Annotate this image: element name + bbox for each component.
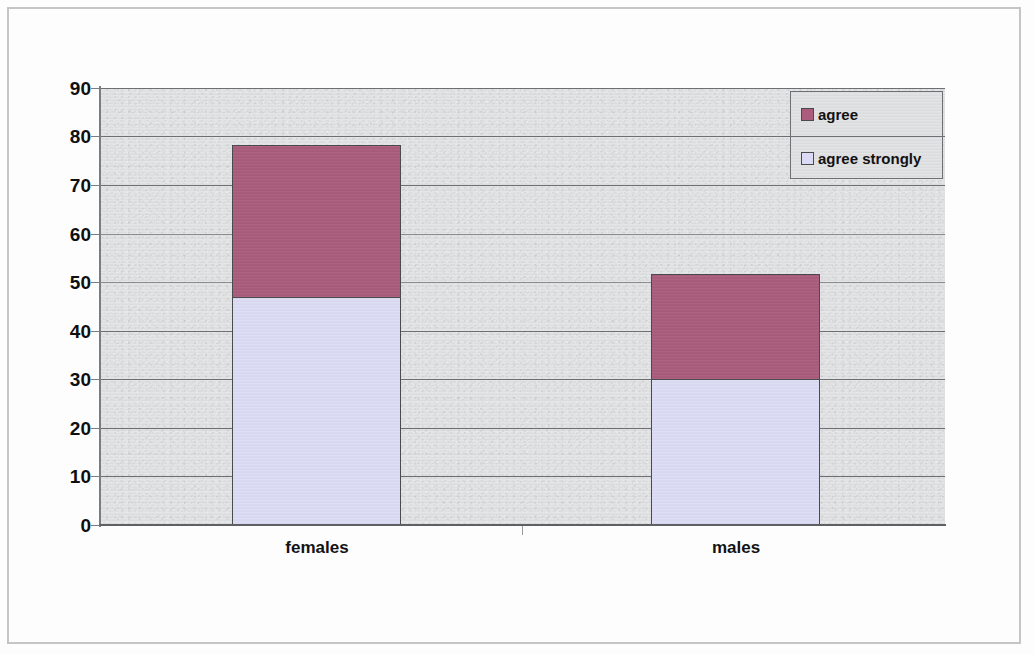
y-tick-label-20: 20: [5, 419, 91, 438]
y-tick-label-40: 40: [5, 322, 91, 341]
y-tick-label-30: 30: [5, 370, 91, 389]
y-axis-tick-labels: 90 80 70 60 50 40 30 20 10 0: [0, 0, 91, 655]
bar-males-agree-strongly[interactable]: [651, 379, 820, 526]
legend-label-agree-strongly: agree strongly: [818, 151, 921, 166]
x-tick-label-males: males: [636, 538, 836, 558]
stacked-bar-chart: 90 80 70 60 50 40 30 20 10 0 females mal…: [0, 0, 1034, 655]
y-tick-30: [91, 379, 100, 380]
bar-males-agree[interactable]: [651, 274, 820, 380]
bar-females-agree-strongly[interactable]: [232, 297, 401, 526]
y-tick-label-80: 80: [5, 127, 91, 146]
y-tick-70: [91, 185, 100, 186]
y-tick-40: [91, 331, 100, 332]
gridline-70: [100, 185, 945, 186]
y-tick-50: [91, 282, 100, 283]
x-category-separator-tick: [522, 526, 523, 535]
legend-item-agree[interactable]: agree: [791, 92, 944, 136]
legend-swatch-agree-strongly-icon: [801, 152, 814, 165]
y-tick-label-10: 10: [5, 467, 91, 486]
bar-females-agree[interactable]: [232, 145, 401, 298]
y-tick-label-90: 90: [5, 79, 91, 98]
chart-legend: agree agree strongly: [790, 91, 943, 179]
y-tick-0: [91, 525, 100, 526]
y-tick-20: [91, 428, 100, 429]
y-tick-label-50: 50: [5, 273, 91, 292]
y-tick-80: [91, 136, 100, 137]
x-tick-label-females: females: [217, 538, 417, 558]
scanned-page: 90 80 70 60 50 40 30 20 10 0 females mal…: [0, 0, 1034, 655]
gridline-90: [100, 88, 945, 89]
y-tick-label-60: 60: [5, 225, 91, 244]
gridline-60: [100, 234, 945, 235]
legend-item-agree-strongly[interactable]: agree strongly: [791, 136, 944, 180]
y-axis-line: [99, 86, 101, 527]
y-tick-10: [91, 476, 100, 477]
y-tick-label-0: 0: [5, 516, 91, 535]
y-tick-90: [91, 88, 100, 89]
y-tick-60: [91, 234, 100, 235]
y-tick-label-70: 70: [5, 176, 91, 195]
legend-swatch-agree-icon: [801, 108, 814, 121]
legend-label-agree: agree: [818, 107, 858, 122]
